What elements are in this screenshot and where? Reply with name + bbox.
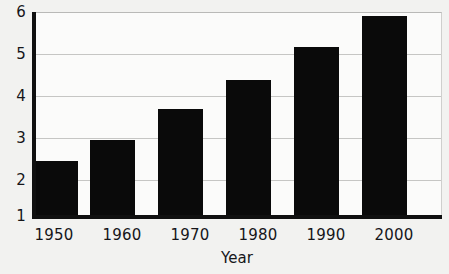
x-axis-title: Year — [32, 251, 442, 266]
y-tick-label-6: 6 — [0, 5, 26, 20]
bar-1980 — [226, 80, 271, 219]
x-axis-spine — [32, 215, 442, 219]
x-tick-label-1960: 1960 — [83, 228, 161, 243]
y-tick-label-4: 4 — [0, 89, 26, 104]
bar-2000 — [362, 16, 407, 219]
bar-1960 — [90, 140, 135, 219]
x-tick-label-1980: 1980 — [219, 228, 297, 243]
bar-chart-figure: 6 5 4 3 2 1 1950 1960 1970 1980 1990 200… — [0, 0, 449, 274]
bar-1990 — [294, 47, 339, 219]
x-tick-label-1950: 1950 — [15, 228, 93, 243]
bar-1970 — [158, 109, 203, 219]
x-tick-label-1970: 1970 — [151, 228, 229, 243]
plot-area — [32, 12, 442, 219]
x-tick-label-1990: 1990 — [287, 228, 365, 243]
y-tick-label-3: 3 — [0, 131, 26, 146]
y-axis-spine — [32, 12, 36, 219]
bar-1950 — [33, 161, 78, 219]
y-tick-label-5: 5 — [0, 47, 26, 62]
y-tick-label-1: 1 — [0, 209, 26, 224]
y-tick-label-2: 2 — [0, 173, 26, 188]
x-tick-label-2000: 2000 — [355, 228, 433, 243]
